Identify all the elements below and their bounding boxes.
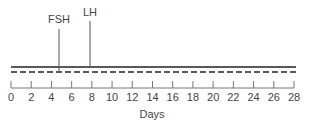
x-tick-label: 22 [227, 91, 239, 103]
x-ticks: 0246810121416182022242628 [8, 81, 300, 103]
x-tick-label: 12 [126, 91, 138, 103]
x-tick-label: 26 [268, 91, 280, 103]
x-tick-label: 24 [247, 91, 259, 103]
x-axis-label: Days [139, 108, 165, 120]
x-tick-label: 28 [288, 91, 300, 103]
x-tick-label: 10 [106, 91, 118, 103]
fsh-label: FSH [48, 13, 70, 25]
x-tick-label: 20 [207, 91, 219, 103]
x-tick-label: 0 [8, 91, 14, 103]
x-tick-label: 14 [146, 91, 158, 103]
x-tick-label: 6 [69, 91, 75, 103]
x-tick-label: 2 [28, 91, 34, 103]
lh-label: LH [83, 6, 97, 18]
x-tick-label: 18 [187, 91, 199, 103]
x-tick-label: 8 [89, 91, 95, 103]
x-tick-label: 16 [167, 91, 179, 103]
chart: FSH LH 0246810121416182022242628 Days [0, 0, 309, 135]
x-tick-label: 4 [48, 91, 54, 103]
